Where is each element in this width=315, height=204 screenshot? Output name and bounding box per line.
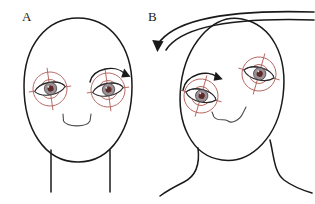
nose-a bbox=[63, 114, 91, 126]
panel-label-b: B bbox=[148, 9, 157, 24]
panel-a: A bbox=[22, 9, 132, 192]
panel-b: B bbox=[148, 9, 314, 196]
eye-right-b bbox=[233, 48, 285, 100]
torsion-arrow-right-eye-a bbox=[90, 68, 131, 82]
eye-left-a bbox=[26, 65, 73, 112]
nose-b bbox=[212, 107, 246, 122]
diagram-svg: A B bbox=[0, 0, 315, 204]
figure-canvas: A B bbox=[0, 0, 315, 204]
neck-b bbox=[160, 140, 312, 196]
torsion-arrow-left-eye-b bbox=[183, 72, 223, 90]
panel-label-a: A bbox=[22, 9, 32, 24]
